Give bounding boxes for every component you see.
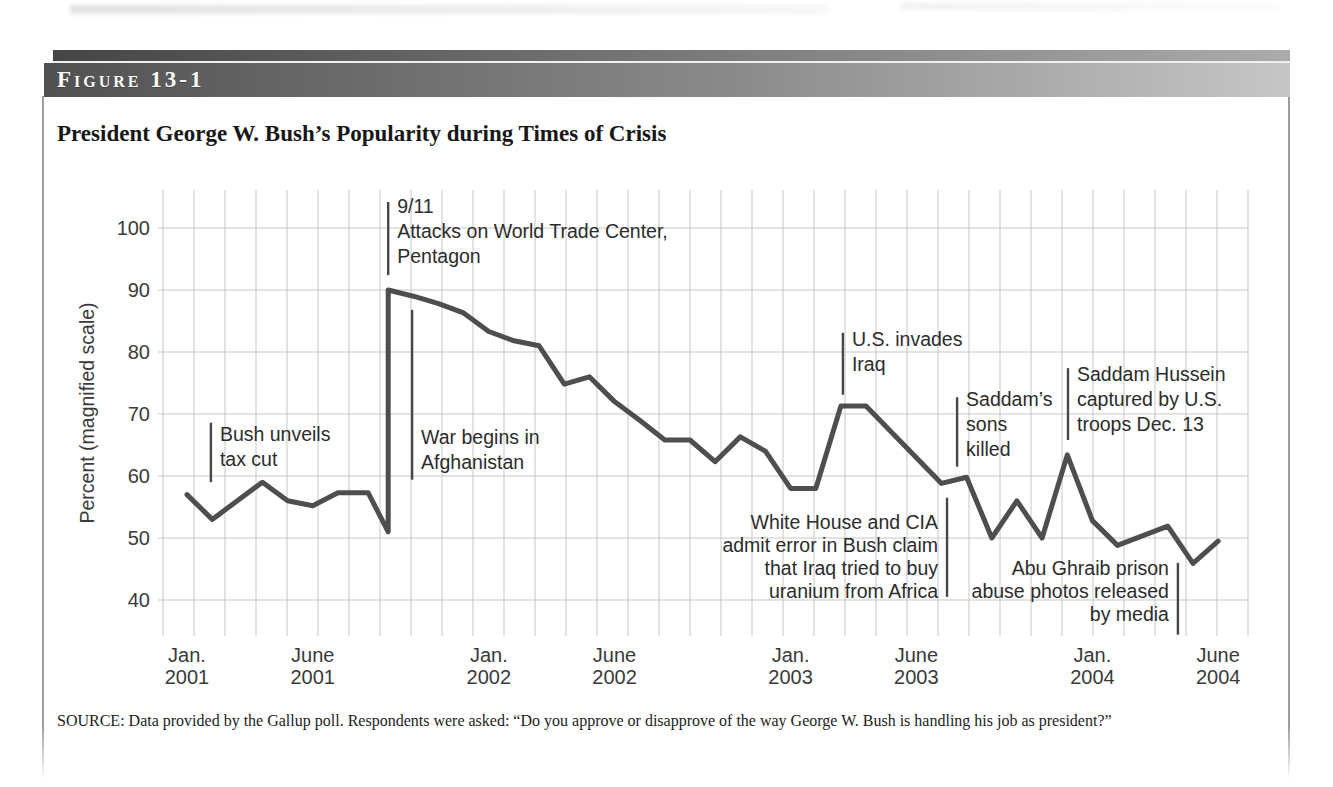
x-tick-label-year: 2003 (894, 666, 939, 688)
annotation-text-afghanistan-war: Afghanistan (421, 451, 524, 473)
annotation-text-saddam-captured: troops Dec. 13 (1077, 413, 1204, 435)
x-tick-label-year: 2001 (291, 666, 336, 688)
figure-header-top-strip (53, 50, 1290, 61)
annotation-text-uranium-claim-error: White House and CIA (751, 511, 939, 533)
y-tick-label-100: 100 (117, 217, 150, 239)
y-tick-label-70: 70 (128, 403, 150, 425)
popularity-line-chart: 100908070605040Jan.2001June2001Jan.2002J… (0, 0, 1333, 787)
x-tick-label-year: 2002 (467, 666, 512, 688)
y-tick-label-60: 60 (128, 465, 150, 487)
annotation-text-iraq-invasion: Iraq (852, 353, 886, 375)
annotation-text-saddam-sons-killed: sons (966, 413, 1007, 435)
x-tick-label-month: June (593, 644, 636, 666)
figure-title: President George W. Bush’s Popularity du… (57, 121, 666, 147)
y-tick-label-50: 50 (128, 527, 150, 549)
x-tick-label-year: 2004 (1196, 666, 1241, 688)
annotation-text-nine-eleven: 9/11 (397, 195, 434, 217)
annotation-text-nine-eleven: Attacks on World Trade Center, (397, 220, 668, 242)
x-tick-label-month: Jan. (470, 644, 508, 666)
x-tick-label-month: Jan. (1073, 644, 1111, 666)
page-top-bleed-2 (900, 3, 1280, 10)
x-tick-label-month: June (291, 644, 334, 666)
x-tick-label-month: Jan. (772, 644, 810, 666)
annotation-text-uranium-claim-error: admit error in Bush claim (722, 534, 938, 556)
page: Figure 13-1 President George W. Bush’s P… (0, 0, 1333, 787)
figure-border-left (42, 96, 44, 780)
x-tick-label-month: Jan. (168, 644, 206, 666)
x-tick-label-month: June (895, 644, 938, 666)
y-tick-label-40: 40 (128, 589, 150, 611)
source-note: SOURCE: Data provided by the Gallup poll… (57, 712, 1272, 730)
annotation-text-iraq-invasion: U.S. invades (852, 328, 963, 350)
figure-header-bar: Figure 13-1 (44, 50, 1290, 97)
annotation-text-tax-cut: tax cut (220, 448, 278, 470)
annotation-text-saddam-sons-killed: killed (966, 438, 1010, 460)
x-tick-label-year: 2004 (1070, 666, 1115, 688)
annotation-text-saddam-captured: Saddam Hussein (1077, 363, 1226, 385)
x-tick-label-year: 2003 (768, 666, 813, 688)
annotation-text-abu-ghraib: by media (1090, 603, 1169, 625)
annotation-text-uranium-claim-error: that Iraq tried to buy (765, 557, 939, 579)
annotation-text-uranium-claim-error: uranium from Africa (769, 580, 938, 602)
annotation-text-afghanistan-war: War begins in (421, 426, 540, 448)
x-tick-label-year: 2001 (165, 666, 210, 688)
figure-label: Figure 13-1 (44, 67, 204, 93)
annotation-text-abu-ghraib: abuse photos released (972, 580, 1169, 602)
annotation-text-tax-cut: Bush unveils (220, 423, 331, 445)
x-tick-label-month: June (1196, 644, 1239, 666)
x-tick-label-year: 2002 (592, 666, 637, 688)
annotation-text-saddam-sons-killed: Saddam’s (966, 388, 1053, 410)
page-top-bleed (70, 5, 830, 14)
annotation-text-nine-eleven: Pentagon (397, 245, 481, 267)
annotation-text-abu-ghraib: Abu Ghraib prison (1012, 557, 1169, 579)
annotation-text-saddam-captured: captured by U.S. (1077, 388, 1222, 410)
y-axis-title: Percent (magnified scale) (76, 302, 98, 523)
approval-trend-line (187, 290, 1218, 563)
figure-header-main-strip: Figure 13-1 (44, 63, 1290, 97)
figure-border-right (1288, 96, 1290, 780)
y-tick-label-80: 80 (128, 341, 150, 363)
y-tick-label-90: 90 (128, 279, 150, 301)
